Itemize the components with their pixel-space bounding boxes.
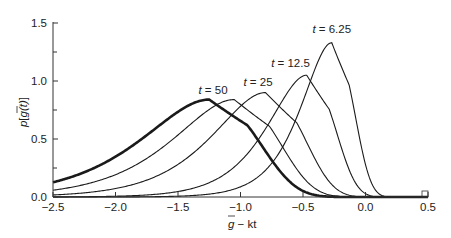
curve-25 xyxy=(53,93,428,197)
x-tick-label: −2.5 xyxy=(42,201,65,213)
curve-labels-group: t = 50t = 25t = 12.5t = 6.25 xyxy=(198,23,351,95)
x-tick-label: 0.5 xyxy=(420,201,436,213)
svg-text:p[g(t)]: p[g(t)] xyxy=(17,97,29,128)
curve-label: t = 25 xyxy=(243,76,272,88)
y-tick-label: 1.0 xyxy=(31,75,47,87)
curves-group xyxy=(53,43,428,197)
x-tick-label: −2.0 xyxy=(104,201,127,213)
axes-group xyxy=(53,22,428,197)
curve-label: t = 12.5 xyxy=(271,57,310,69)
chart: 0.00.51.01.5 −2.5−2.0−1.5−1.0−0.50.00.5 … xyxy=(0,0,451,238)
x-tick-label: −1.0 xyxy=(229,201,252,213)
curve-label: t = 50 xyxy=(198,84,227,96)
y-axis-label: p[g(t)] xyxy=(17,97,29,128)
y-tick-label: 0.5 xyxy=(31,133,47,145)
curve-12.5 xyxy=(53,75,428,197)
x-tick-label: −1.5 xyxy=(167,201,190,213)
x-tick-label: −0.5 xyxy=(292,201,315,213)
y-tick-label: 1.5 xyxy=(31,17,47,29)
curve-label: t = 6.25 xyxy=(312,23,351,35)
x-tick-label: 0.0 xyxy=(358,201,374,213)
y-ticks-group: 0.00.51.01.5 xyxy=(31,17,58,203)
svg-text:g − kt: g − kt xyxy=(228,218,257,230)
x-axis-label: g − kt xyxy=(228,216,257,230)
x-ticks-group: −2.5−2.0−1.5−1.0−0.50.00.5 xyxy=(42,192,436,213)
